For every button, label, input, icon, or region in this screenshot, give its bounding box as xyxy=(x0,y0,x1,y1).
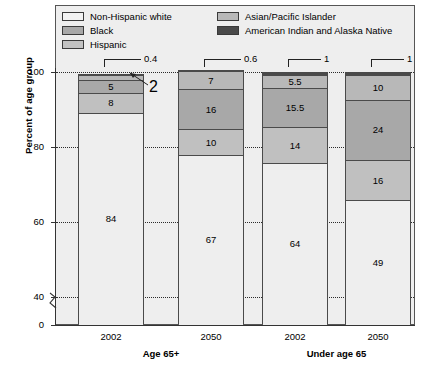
bar-segment: 5.5 xyxy=(263,76,327,90)
legend-item-label: Non-Hispanic white xyxy=(90,11,172,22)
bar-segment: 8 xyxy=(79,94,143,114)
bar-under65-2050: 10241649 xyxy=(345,72,411,324)
bar-segment-value-label: 49 xyxy=(373,258,384,268)
legend-item: Black xyxy=(62,24,172,37)
bar-segment: 67 xyxy=(179,156,243,325)
x-axis-group-label: Age 65+ xyxy=(86,348,236,359)
y-tick-label: 100 xyxy=(18,67,44,76)
bar-segment-value-label: 5 xyxy=(108,82,113,92)
callout-1b-bracket xyxy=(371,59,404,67)
legend-item: Asian/Pacific Islander xyxy=(217,10,392,23)
legend-swatch-icon xyxy=(62,26,84,35)
legend-item-label: Hispanic xyxy=(90,39,126,50)
bar-segment: 84 xyxy=(79,114,143,325)
bar-segment: 24 xyxy=(346,101,410,161)
bar-age65plus-2002: 5884 xyxy=(78,74,144,324)
legend-column-left: Non-Hispanic whiteBlackHispanic xyxy=(62,10,172,52)
bar-segment-value-label: 16 xyxy=(373,176,384,186)
y-axis-line xyxy=(55,68,56,325)
bar-segment-value-label: 10 xyxy=(206,138,217,148)
legend-swatch-icon xyxy=(62,40,84,49)
legend-item-label: Asian/Pacific Islander xyxy=(245,11,336,22)
bar-segment: 64 xyxy=(263,164,327,325)
y-tick-label: 80 xyxy=(18,142,44,151)
legend-column-right: Asian/Pacific IslanderAmerican Indian an… xyxy=(217,10,392,38)
x-tick-label: 2002 xyxy=(76,331,146,342)
x-axis-line xyxy=(55,325,415,326)
callout-06-bracket xyxy=(204,59,241,67)
legend-item: Non-Hispanic white xyxy=(62,10,172,23)
bar-segment: 10 xyxy=(346,76,410,101)
bar-segment: 7 xyxy=(179,72,243,90)
bar-segment-value-label: 15.5 xyxy=(286,103,305,113)
x-tick-label: 2002 xyxy=(260,331,330,342)
bar-segment-value-label: 64 xyxy=(290,239,301,249)
callout-1a-label: 1 xyxy=(324,53,329,64)
legend-item-label: Black xyxy=(90,25,113,36)
callout-2-label: 2 xyxy=(149,78,158,96)
y-tick-label: 60 xyxy=(18,217,44,226)
bar-segment-value-label: 84 xyxy=(106,214,117,224)
legend-swatch-icon xyxy=(217,12,239,21)
bar-under65-2002: 5.515.51464 xyxy=(262,72,328,324)
x-axis-group-label: Under age 65 xyxy=(262,348,412,359)
x-tick-label: 2050 xyxy=(343,331,413,342)
bar-segment-value-label: 7 xyxy=(208,76,213,86)
bar-segment-value-label: 14 xyxy=(290,141,301,151)
x-tick-label: 2050 xyxy=(176,331,246,342)
bar-segment: 16 xyxy=(346,161,410,201)
bar-segment: 49 xyxy=(346,201,410,324)
legend-item-label: American Indian and Alaska Native xyxy=(245,25,392,36)
y-tick-label: 0 xyxy=(18,320,44,329)
legend: Non-Hispanic whiteBlackHispanic Asian/Pa… xyxy=(62,10,410,52)
bar-age65plus-2050: 7161067 xyxy=(178,70,244,324)
callout-2-leader-icon xyxy=(126,66,166,92)
legend-swatch-icon xyxy=(217,26,239,35)
y-tick-label: 40 xyxy=(18,292,44,301)
stacked-bar-chart: Percent of age group Non-Hispanic whiteB… xyxy=(0,0,421,371)
bar-segment: 16 xyxy=(179,90,243,130)
axis-break-icon xyxy=(49,292,63,312)
bar-segment-value-label: 24 xyxy=(373,125,384,135)
bar-segment-value-label: 67 xyxy=(206,235,217,245)
bar-segment: 15.5 xyxy=(263,89,327,128)
bar-segment: 14 xyxy=(263,128,327,163)
callout-1a-bracket xyxy=(288,59,321,67)
callout-1b-label: 1 xyxy=(407,53,412,64)
bar-segment-value-label: 8 xyxy=(108,98,113,108)
y-axis-title: Percent of age group xyxy=(23,26,34,186)
legend-item: Hispanic xyxy=(62,38,172,51)
bar-segment: 10 xyxy=(179,130,243,155)
bar-segment-value-label: 5.5 xyxy=(288,77,301,87)
legend-item: American Indian and Alaska Native xyxy=(217,24,392,37)
bar-segment-value-label: 10 xyxy=(373,83,384,93)
legend-swatch-icon xyxy=(62,12,84,21)
callout-06-label: 0.6 xyxy=(244,53,257,64)
bar-segment-value-label: 16 xyxy=(206,105,217,115)
callout-04-label: 0.4 xyxy=(144,53,157,64)
